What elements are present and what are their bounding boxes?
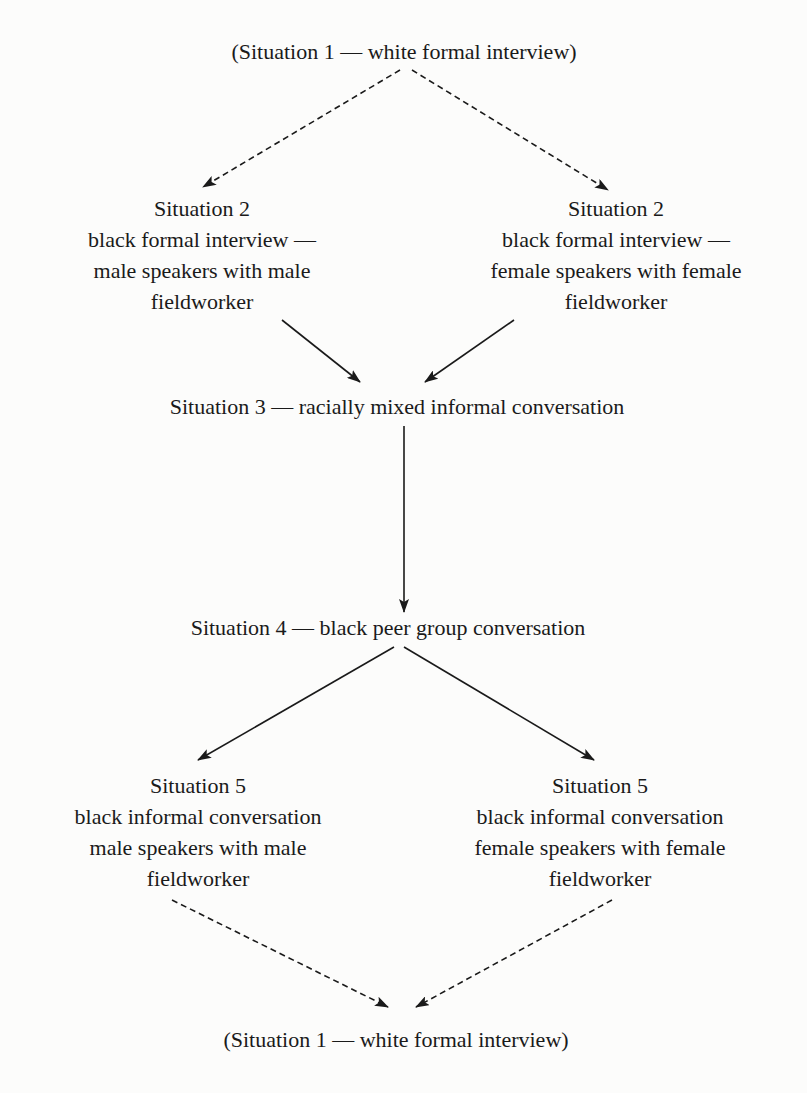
edge-s1-to-s2-left xyxy=(203,70,400,187)
node-situation-1-top: (Situation 1 — white formal interview) xyxy=(231,36,576,67)
node-line: fieldworker xyxy=(75,863,322,894)
node-line: female speakers with female xyxy=(474,832,725,863)
node-line: black formal interview — xyxy=(88,224,316,255)
edge-s2-left-to-s3 xyxy=(282,320,360,382)
node-situation-5-male: Situation 5 black informal conversation … xyxy=(75,770,322,894)
node-line: male speakers with male xyxy=(88,255,316,286)
node-title: Situation 2 xyxy=(490,193,741,224)
node-title: Situation 5 xyxy=(75,770,322,801)
node-situation-2-male: Situation 2 black formal interview — mal… xyxy=(88,193,316,317)
arrow-layer-main xyxy=(0,0,807,1093)
node-situation-4: Situation 4 — black peer group conversat… xyxy=(191,612,586,643)
node-line: female speakers with female xyxy=(490,255,741,286)
node-line: fieldworker xyxy=(490,286,741,317)
node-line: fieldworker xyxy=(474,863,725,894)
node-situation-1-bottom: (Situation 1 — white formal interview) xyxy=(223,1024,568,1055)
node-situation-3: Situation 3 — racially mixed informal co… xyxy=(170,391,625,422)
node-line: fieldworker xyxy=(88,286,316,317)
edge-s1-to-s2-right xyxy=(412,70,608,190)
node-line: male speakers with male xyxy=(75,832,322,863)
node-title: Situation 5 xyxy=(474,770,725,801)
edge-s4-to-s5-left xyxy=(198,647,394,760)
node-line: black informal conversation xyxy=(75,801,322,832)
edge-s2-right-to-s3 xyxy=(425,320,514,382)
node-line: black informal conversation xyxy=(474,801,725,832)
node-title: Situation 2 xyxy=(88,193,316,224)
node-situation-5-female: Situation 5 black informal conversation … xyxy=(474,770,725,894)
node-situation-2-female: Situation 2 black formal interview — fem… xyxy=(490,193,741,317)
node-line: black formal interview — xyxy=(490,224,741,255)
edge-s5-right-to-s1-bottom xyxy=(416,900,612,1007)
edge-s5-left-to-s1-bottom xyxy=(172,900,388,1007)
edge-s4-to-s5-right xyxy=(404,647,594,760)
